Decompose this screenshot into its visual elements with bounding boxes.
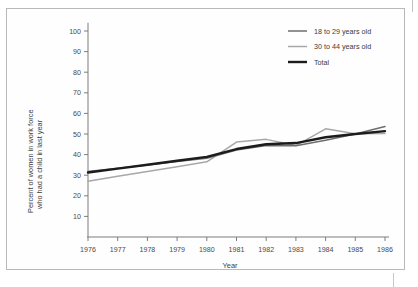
y-tick-label: 80 [73, 69, 81, 77]
y-axis-ticks [84, 31, 88, 216]
y-axis-title: Percent of women in work force who had a… [26, 109, 44, 213]
x-tick-label: 1985 [347, 246, 363, 254]
x-tick-label: 1982 [258, 246, 274, 254]
x-tick-label: 1980 [199, 246, 215, 254]
data-series-group [88, 127, 385, 182]
legend: 18 to 29 years old30 to 44 years oldTota… [288, 27, 371, 67]
y-axis-title-line2: who had a child in last year [35, 119, 44, 210]
x-axis-title: Year [223, 261, 238, 270]
x-axis-tick-labels: 1976197719781979198019811982198319841985… [80, 246, 393, 254]
x-tick-label: 1977 [110, 246, 126, 254]
y-tick-label: 60 [73, 110, 81, 118]
x-tick-label: 1979 [169, 246, 185, 254]
legend-label: Total [314, 58, 330, 67]
x-tick-label: 1981 [229, 246, 245, 254]
y-tick-label: 70 [73, 89, 81, 97]
legend-label: 18 to 29 years old [314, 27, 371, 36]
legend-label: 30 to 44 years old [314, 42, 371, 51]
x-axis-ticks [88, 237, 385, 241]
y-tick-label: 10 [73, 213, 81, 221]
x-tick-label: 1984 [318, 246, 334, 254]
y-tick-label: 20 [73, 192, 81, 200]
x-tick-label: 1983 [288, 246, 304, 254]
y-tick-label: 90 [73, 48, 81, 56]
line-chart: 102030405060708090100 197619771978197919… [0, 0, 418, 287]
x-tick-label: 1976 [80, 246, 96, 254]
x-tick-label: 1986 [377, 246, 393, 254]
y-axis-title-line1: Percent of women in work force [26, 109, 35, 213]
y-tick-label: 100 [69, 28, 81, 36]
y-axis-tick-labels: 102030405060708090100 [69, 28, 81, 221]
x-axis: 1976197719781979198019811982198319841985… [80, 237, 393, 254]
x-tick-label: 1978 [140, 246, 156, 254]
y-tick-label: 40 [73, 151, 81, 159]
y-tick-label: 30 [73, 172, 81, 180]
y-axis: 102030405060708090100 [69, 23, 88, 237]
y-tick-label: 50 [73, 131, 81, 139]
